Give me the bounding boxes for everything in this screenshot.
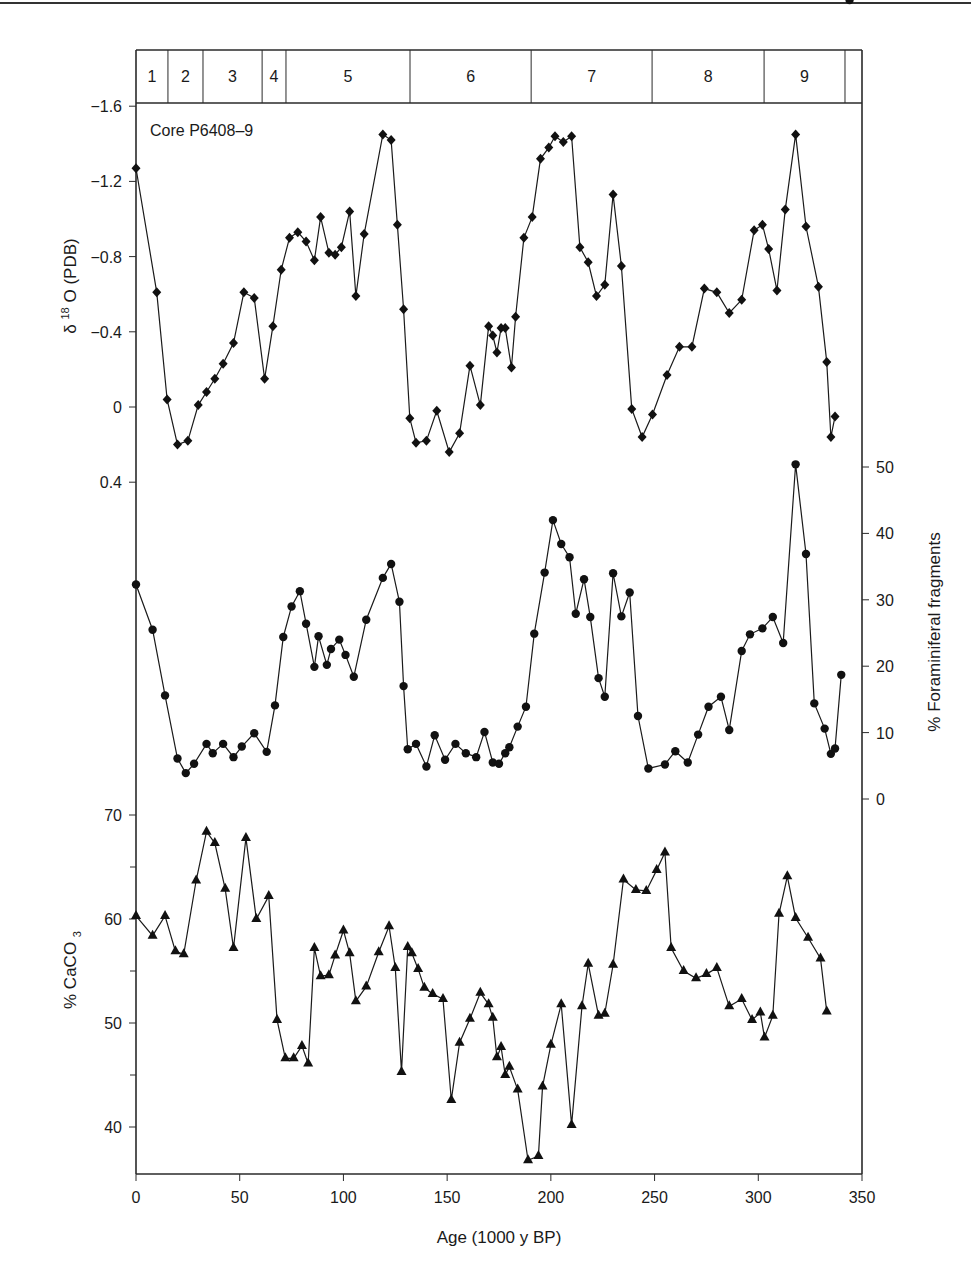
circle-marker-icon [314,632,322,640]
triangle-marker-icon [768,1010,778,1019]
diamond-marker-icon [219,359,228,369]
triangle-marker-icon [791,912,801,921]
triangle-marker-icon [652,864,662,873]
stage-label-2: 2 [181,68,190,85]
triangle-marker-icon [538,1080,548,1089]
circle-marker-icon [250,729,258,737]
diamond-marker-icon [575,242,584,252]
triangle-marker-icon [712,962,722,971]
diamond-marker-icon [627,404,636,414]
triangle-marker-icon [191,875,201,884]
x-axis-title: Age (1000 y BP) [437,1228,562,1247]
triangle-marker-icon [641,885,651,894]
triangle-marker-icon [309,942,319,951]
diamond-marker-icon [163,394,172,404]
triangle-marker-icon [297,1040,307,1049]
triangle-marker-icon [747,1014,757,1023]
delta-symbol: δ [61,324,80,333]
triangle-marker-icon [782,870,792,879]
diamond-marker-icon [268,321,277,331]
fragments-line [136,464,841,773]
circle-marker-icon [462,749,470,757]
delta18o-tick-label: 0 [113,399,122,416]
circle-marker-icon [173,754,181,762]
circle-marker-icon [513,722,521,730]
circle-marker-icon [779,639,787,647]
caco3-subscript: 3 [71,931,83,937]
circle-marker-icon [387,560,395,568]
triangle-marker-icon [446,1094,456,1103]
diamond-marker-icon [324,248,333,258]
triangle-marker-icon [324,969,334,978]
diamond-marker-icon [399,304,408,314]
caco3-main: % CaCO [61,942,80,1009]
diamond-marker-icon [183,436,192,446]
diamond-marker-icon [528,212,537,222]
diamond-marker-icon [492,347,501,357]
triangle-marker-icon [264,890,274,899]
stage-label-1: 1 [148,68,157,85]
triangle-marker-icon [546,1039,556,1048]
circle-marker-icon [746,630,754,638]
circle-marker-icon [296,587,304,595]
diamond-marker-icon [559,137,568,147]
circle-marker-icon [522,703,530,711]
diamond-marker-icon [750,225,759,235]
circle-marker-icon [472,753,480,761]
stage-label-9: 9 [800,68,809,85]
circle-marker-icon [132,580,140,588]
diamond-marker-icon [648,410,657,420]
triangle-marker-icon [455,1037,465,1046]
circle-marker-icon [530,629,538,637]
x-tick-label: 0 [132,1189,141,1206]
circle-marker-icon [302,620,310,628]
fragments-tick-label: 40 [876,525,894,542]
circle-marker-icon [540,568,548,576]
triangle-marker-icon [303,1058,313,1067]
diamond-marker-icon [173,440,182,450]
triangle-marker-icon [492,1051,502,1060]
delta18o-tick-label: −1.2 [90,173,122,190]
triangle-marker-icon [131,910,141,919]
x-tick-label: 150 [434,1189,461,1206]
circle-marker-icon [725,726,733,734]
diamond-marker-icon [712,287,721,297]
diamond-marker-icon [432,406,441,416]
diamond-marker-icon [772,285,781,295]
x-tick-label: 100 [330,1189,357,1206]
circle-marker-icon [287,602,295,610]
triangle-marker-icon [228,942,238,951]
diamond-marker-icon [484,321,493,331]
circle-marker-icon [837,671,845,679]
circle-marker-icon [451,740,459,748]
x-tick-label: 50 [231,1189,249,1206]
stage-label-8: 8 [704,68,713,85]
triangle-marker-icon [419,982,429,991]
triangle-marker-icon [361,981,371,990]
diamond-marker-icon [826,432,835,442]
triangle-marker-icon [160,910,170,919]
circle-marker-icon [412,740,420,748]
circle-marker-icon [441,756,449,764]
circle-marker-icon [831,744,839,752]
diamond-marker-icon [822,357,831,367]
diamond-marker-icon [285,233,294,243]
triangle-marker-icon [251,913,261,922]
triangle-marker-icon [755,1007,765,1016]
diamond-marker-icon [345,206,354,216]
circle-marker-icon [161,691,169,699]
x-tick-label: 300 [745,1189,772,1206]
caco3-tick-label: 60 [104,911,122,928]
diamond-marker-icon [422,436,431,446]
circle-marker-icon [310,663,318,671]
stage-label-5: 5 [344,68,353,85]
triangle-marker-icon [504,1061,514,1070]
circle-marker-icon [791,460,799,468]
diamond-marker-icon [584,257,593,267]
diamond-marker-icon [393,220,402,230]
circle-marker-icon [327,645,335,653]
circle-marker-icon [594,674,602,682]
axes: 050100150200250300350−1.6−1.2−0.8−0.400.… [90,98,893,1206]
triangle-marker-icon [338,924,348,933]
circle-marker-icon [219,740,227,748]
